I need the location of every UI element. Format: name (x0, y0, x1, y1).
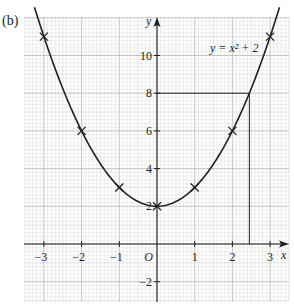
origin-label: O (144, 250, 153, 264)
y-tick-label: 2 (146, 199, 152, 213)
x-tick-label: −1 (110, 250, 123, 264)
x-tick-label: 3 (267, 250, 273, 264)
y-tick-label: 6 (146, 124, 152, 138)
x-tick-label: −3 (35, 250, 48, 264)
x-tick-label: 2 (229, 250, 235, 264)
y-axis-label: y (145, 14, 152, 28)
y-tick-label: −2 (139, 275, 152, 289)
y-tick-label: 4 (146, 162, 152, 176)
graph: −3−2−1123−2246810Oxy y = x² + 2 (0, 0, 294, 305)
y-tick-label: 10 (140, 49, 152, 63)
x-axis-label: x (280, 248, 287, 262)
x-tick-label: 1 (192, 250, 198, 264)
x-tick-label: −2 (72, 250, 85, 264)
equation-label: y = x² + 2 (209, 41, 258, 55)
y-tick-label: 8 (146, 86, 152, 100)
